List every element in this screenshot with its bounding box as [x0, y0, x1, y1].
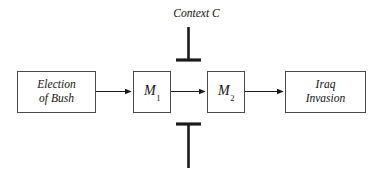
node-iraq-line-1: Iraq: [316, 78, 336, 92]
node-election-of-bush: Election of Bush: [17, 71, 96, 113]
node-m1-label: M1: [144, 83, 160, 101]
diagram-canvas: Context C Election of Bush M1 M2 Iraq In…: [0, 0, 377, 186]
node-m2-label: M2: [218, 83, 234, 101]
node-election-line-2: of Bush: [39, 92, 74, 106]
node-m1: M1: [133, 71, 171, 113]
node-m1-base: M: [144, 83, 156, 98]
node-m2-base: M: [218, 83, 230, 98]
node-iraq-invasion: Iraq Invasion: [285, 71, 366, 113]
node-m2-subscript: 2: [230, 93, 234, 103]
node-election-line-1: Election: [37, 78, 75, 92]
node-m1-subscript: 1: [156, 93, 160, 103]
node-iraq-line-2: Invasion: [306, 92, 346, 106]
node-m2: M2: [207, 71, 245, 113]
